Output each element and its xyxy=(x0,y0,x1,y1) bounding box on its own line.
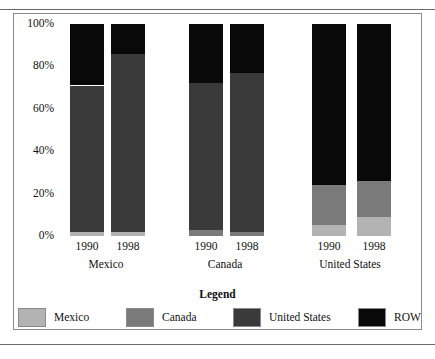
legend-label-mexico: Mexico xyxy=(54,311,89,323)
segment-united-states xyxy=(70,86,104,232)
segment-canada xyxy=(312,185,346,225)
segment-canada xyxy=(230,232,264,236)
y-tick-100: 100% xyxy=(27,18,54,30)
legend-swatch-canada-icon xyxy=(126,308,154,327)
segment-canada xyxy=(357,181,391,217)
legend: Mexico Canada United States ROW xyxy=(18,306,418,328)
group-label-canada: Canada xyxy=(165,256,285,272)
top-divider-rule xyxy=(0,9,435,10)
segment-row xyxy=(312,24,346,185)
x-label-canada-1998: 1998 xyxy=(225,238,269,254)
x-label-usa-1990: 1990 xyxy=(307,238,351,254)
legend-swatch-row-icon xyxy=(358,308,386,327)
bar-united-states-1998 xyxy=(357,24,391,236)
legend-item-canada: Canada xyxy=(126,306,196,328)
y-tick-40: 40% xyxy=(33,145,54,157)
segment-mexico xyxy=(312,225,346,236)
segment-row xyxy=(111,24,145,54)
x-axis-year-labels: 1990 1998 1990 1998 1990 1998 xyxy=(60,238,412,254)
segment-united-states xyxy=(189,83,223,229)
x-label-mexico-1990: 1990 xyxy=(65,238,109,254)
legend-label-united-states: United States xyxy=(269,311,331,323)
x-label-canada-1990: 1990 xyxy=(184,238,228,254)
chart-figure: 100% 80% 60% 40% 20% 0% xyxy=(0,0,435,359)
legend-item-mexico: Mexico xyxy=(18,306,89,328)
bar-canada-1990 xyxy=(189,24,223,236)
x-label-usa-1998: 1998 xyxy=(352,238,396,254)
bar-mexico-1998 xyxy=(111,24,145,236)
legend-swatch-mexico-icon xyxy=(18,308,46,327)
y-tick-80: 80% xyxy=(33,61,54,73)
bottom-divider-rule xyxy=(0,344,435,345)
legend-title: Legend xyxy=(0,288,435,300)
segment-united-states xyxy=(111,54,145,232)
legend-label-row: ROW xyxy=(394,311,421,323)
segment-mexico xyxy=(111,232,145,236)
legend-label-canada: Canada xyxy=(162,311,196,323)
legend-item-united-states: United States xyxy=(233,306,331,328)
segment-row xyxy=(70,24,104,85)
x-axis-group-labels: Mexico Canada United States xyxy=(60,256,412,272)
segment-canada xyxy=(189,230,223,236)
segment-row xyxy=(357,24,391,181)
legend-item-row: ROW xyxy=(358,306,421,328)
bar-united-states-1990 xyxy=(312,24,346,236)
y-tick-0: 0% xyxy=(39,230,54,242)
segment-united-states xyxy=(230,73,264,232)
segment-mexico xyxy=(357,217,391,236)
y-tick-60: 60% xyxy=(33,103,54,115)
bar-mexico-1990 xyxy=(70,24,104,236)
bar-canada-1998 xyxy=(230,24,264,236)
plot-area: 100% 80% 60% 40% 20% 0% xyxy=(60,24,412,236)
group-label-mexico: Mexico xyxy=(46,256,166,272)
group-label-united-states: United States xyxy=(290,256,410,272)
y-tick-20: 20% xyxy=(33,188,54,200)
segment-row xyxy=(189,24,223,83)
x-label-mexico-1998: 1998 xyxy=(106,238,150,254)
legend-swatch-united-states-icon xyxy=(233,308,261,327)
segment-row xyxy=(230,24,264,73)
segment-mexico xyxy=(70,232,104,236)
